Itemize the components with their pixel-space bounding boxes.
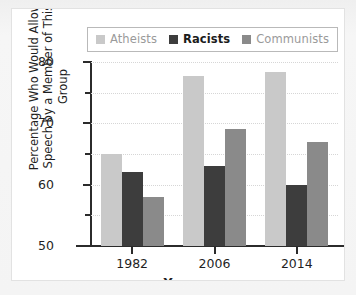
bar — [183, 76, 204, 247]
legend-item-racists: Racists — [169, 34, 230, 46]
legend-swatch-atheists — [96, 35, 105, 44]
legend-label-atheists: Atheists — [110, 34, 157, 46]
y-axis-title-line1: Percentage Who Would Allow — [27, 8, 41, 178]
chart-canvas: Atheists Racists Communists 506070801982… — [11, 8, 345, 281]
legend-swatch-communists — [242, 35, 251, 44]
bar — [122, 172, 143, 246]
plot-area — [91, 62, 338, 246]
x-axis-tick — [131, 247, 133, 254]
legend-item-communists: Communists — [242, 34, 329, 46]
bar — [307, 142, 328, 246]
gridline — [91, 93, 338, 94]
y-axis-title: Percentage Who Would Allow Speech by a M… — [27, 8, 70, 178]
x-axis-tick-label: 2014 — [262, 258, 332, 271]
x-axis-tick — [296, 247, 298, 254]
legend-item-atheists: Atheists — [96, 34, 157, 46]
gridline — [91, 154, 338, 155]
y-axis-title-line2: Speech by a Member of This Group — [42, 8, 71, 178]
y-axis-tick-label: 60 — [14, 179, 54, 192]
y-axis-tick-label: 50 — [14, 240, 54, 253]
bar — [265, 72, 286, 246]
bar — [286, 185, 307, 246]
x-axis-tick-label: 1982 — [97, 258, 167, 271]
bar — [225, 129, 246, 246]
y-axis-tick-major — [83, 122, 91, 124]
chart-legend: Atheists Racists Communists — [87, 27, 338, 52]
x-axis-tick-label: 2006 — [180, 258, 250, 271]
bar — [101, 154, 122, 246]
x-axis-tick — [214, 247, 216, 254]
bar — [204, 166, 225, 246]
gridline — [91, 123, 338, 124]
y-axis-tick-major — [83, 61, 91, 63]
figure-container: Atheists Racists Communists 506070801982… — [0, 0, 356, 295]
gridline — [91, 62, 338, 63]
bar — [143, 197, 164, 246]
y-axis-tick-major — [83, 245, 91, 247]
legend-label-racists: Racists — [183, 34, 230, 46]
legend-label-communists: Communists — [256, 34, 329, 46]
y-axis-tick-major — [83, 184, 91, 186]
x-axis-title: Year — [12, 275, 345, 281]
legend-swatch-racists — [169, 35, 178, 44]
